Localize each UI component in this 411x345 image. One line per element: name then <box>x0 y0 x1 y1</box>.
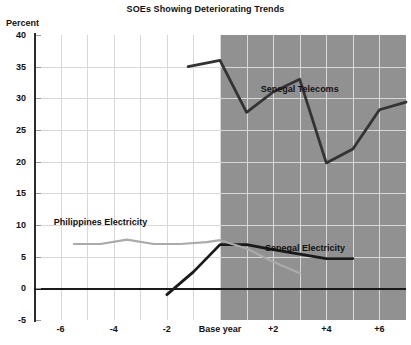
x-tick-label: +2 <box>268 324 278 334</box>
y-tick-mark <box>36 98 41 99</box>
y-tick-label: 30 <box>0 93 26 103</box>
y-tick-mark <box>36 225 41 226</box>
x-tick-label: +4 <box>321 324 331 334</box>
y-tick-mark <box>36 162 41 163</box>
y-tick-label: -5 <box>0 315 26 325</box>
y-axis-label: Percent <box>6 18 39 28</box>
chart-title: SOEs Showing Deteriorating Trends <box>0 4 411 14</box>
chart-root: SOEs Showing Deteriorating Trends Percen… <box>0 0 411 345</box>
zero-line <box>34 288 406 290</box>
plot-area <box>34 35 406 320</box>
y-tick-mark <box>36 257 41 258</box>
series-lines <box>34 35 406 320</box>
series-label: Philippines Electricity <box>54 217 148 227</box>
x-tick-label: -2 <box>163 324 171 334</box>
y-tick-label: 15 <box>0 188 26 198</box>
y-tick-label: 35 <box>0 62 26 72</box>
y-tick-label: 0 <box>0 283 26 293</box>
x-tick-label: -4 <box>110 324 118 334</box>
y-tick-mark <box>36 193 41 194</box>
y-tick-mark <box>36 67 41 68</box>
y-tick-label: 25 <box>0 125 26 135</box>
y-tick-label: 10 <box>0 220 26 230</box>
y-tick-label: 5 <box>0 252 26 262</box>
x-tick-label: Base year <box>199 324 242 334</box>
series-line <box>188 60 406 163</box>
x-tick-label: -6 <box>57 324 65 334</box>
y-tick-mark <box>36 288 41 289</box>
series-label: Senegal Electricity <box>265 243 345 253</box>
y-axis <box>34 33 36 322</box>
y-tick-mark <box>36 35 41 36</box>
series-label: Senegal Telecoms <box>261 84 339 94</box>
y-tick-label: 40 <box>0 30 26 40</box>
y-tick-label: 20 <box>0 157 26 167</box>
y-tick-mark <box>36 320 41 321</box>
x-tick-label: +6 <box>374 324 384 334</box>
y-tick-mark <box>36 130 41 131</box>
